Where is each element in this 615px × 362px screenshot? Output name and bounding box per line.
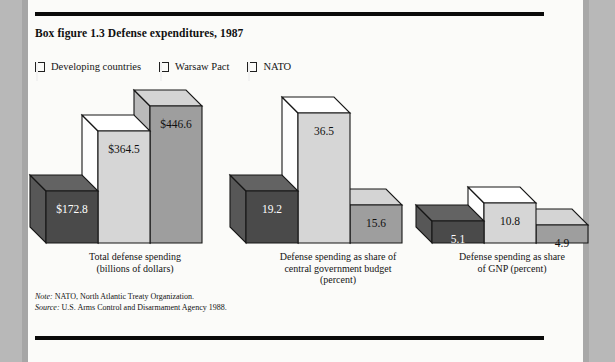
note-label: Note: <box>35 292 53 301</box>
group-axis-label-line: Defense spending as share <box>422 251 602 263</box>
bar-value-label: $446.6 <box>160 118 192 130</box>
rule-bottom <box>35 336 544 340</box>
group-axis-label: Total defense spending(billions of dolla… <box>40 251 230 274</box>
group-axis-label-line: central government budget <box>238 263 438 275</box>
group-axis-label-line: Defense spending as share of <box>238 251 438 263</box>
bar-value-label: $364.5 <box>108 143 140 155</box>
source-text: U.S. Arms Control and Disarmament Agency… <box>60 303 227 312</box>
bar-front-face <box>246 191 298 243</box>
group-axis-label-line: Total defense spending <box>40 251 230 263</box>
bar-value-label: 36.5 <box>314 125 334 137</box>
group-axis-label-line: (billions of dollars) <box>40 263 230 275</box>
note-line: Note: NATO, North Atlantic Treaty Organi… <box>35 292 227 303</box>
figure-root: Box figure 1.3 Defense expenditures, 198… <box>0 0 615 362</box>
bar-3d: $172.8 <box>30 175 98 243</box>
figure-notes: Note: NATO, North Atlantic Treaty Organi… <box>35 292 227 313</box>
group-axis-label-line: of GNP (percent) <box>422 263 602 275</box>
bar-value-label: $172.8 <box>56 203 88 215</box>
note-text: NATO, North Atlantic Treaty Organization… <box>53 292 194 301</box>
group-axis-label: Defense spending as share ofcentral gove… <box>238 251 438 286</box>
group-axis-label: Defense spending as shareof GNP (percent… <box>422 251 602 274</box>
bar-3d: 19.2 <box>230 175 298 243</box>
bar-value-label: 5.1 <box>451 233 466 245</box>
source-label: Source: <box>35 303 60 312</box>
bar-value-label: 4.9 <box>555 237 570 249</box>
bar-3d: 5.1 <box>416 205 484 245</box>
bar-value-label: 19.2 <box>262 203 282 215</box>
bar-value-label: 15.6 <box>366 217 386 229</box>
source-line: Source: U.S. Arms Control and Disarmamen… <box>35 303 227 314</box>
group-axis-label-line: (percent) <box>238 274 438 286</box>
bar-front-face <box>46 191 98 243</box>
bar-value-label: 10.8 <box>500 215 520 227</box>
